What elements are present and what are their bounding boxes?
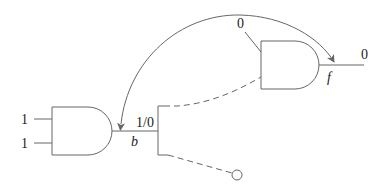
stem-b: 1/0 b bbox=[112, 106, 158, 155]
open-terminal-icon bbox=[232, 170, 242, 180]
lower-gate-input-2-value: 1 bbox=[21, 136, 28, 151]
upper-gate-input-wire bbox=[245, 32, 261, 52]
lower-gate-input-1-value: 1 bbox=[21, 112, 28, 127]
stem-value-label: 1/0 bbox=[136, 115, 154, 130]
and-gate-upper: 0 0 f bbox=[237, 16, 368, 89]
lower-branch-dashed bbox=[168, 155, 232, 173]
and-gate-lower-body bbox=[52, 107, 112, 155]
output-name-label: f bbox=[327, 70, 333, 85]
upper-branch-dashed bbox=[164, 77, 261, 106]
and-gate-upper-body bbox=[261, 41, 319, 89]
fanout-branches bbox=[158, 77, 261, 180]
output-value-label: 0 bbox=[361, 47, 368, 62]
upper-gate-input-value: 0 bbox=[237, 16, 244, 31]
stem-name-label: b bbox=[131, 134, 138, 149]
and-gate-lower: 1 1 bbox=[21, 107, 112, 155]
circuit-diagram: 1 1 1/0 b 0 0 f bbox=[0, 0, 387, 192]
